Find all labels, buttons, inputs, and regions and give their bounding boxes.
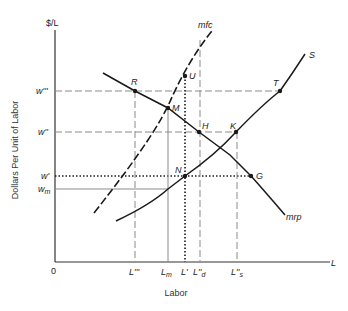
curve-mfc xyxy=(94,31,212,213)
tick-label-w3: w''' xyxy=(36,86,48,96)
svg-text:G: G xyxy=(256,171,263,181)
tick-label-wm: wm xyxy=(38,184,51,195)
svg-text:M: M xyxy=(172,103,180,113)
svg-text:T: T xyxy=(273,78,280,88)
curve-label-supply: S xyxy=(309,50,315,60)
tick-label-Ls: L''s xyxy=(231,267,243,278)
x-axis-end-label: L xyxy=(331,258,336,268)
point-G: G xyxy=(249,171,263,181)
tick-label-L3: L''' xyxy=(129,267,139,277)
labor-market-diagram: $/L L 0 Labor Dollars Per Unit of Labor … xyxy=(0,0,348,311)
x-axis-title: Labor xyxy=(164,288,187,298)
svg-text:R: R xyxy=(131,77,138,87)
curve-mrp xyxy=(103,73,285,215)
tick-label-Lm: Lm xyxy=(161,267,172,278)
origin-label: 0 xyxy=(51,266,56,276)
svg-text:U: U xyxy=(189,71,196,81)
tick-label-Ld: L''d xyxy=(193,267,206,278)
y-axis-unit-label: $/L xyxy=(46,18,59,28)
svg-text:H: H xyxy=(202,121,209,131)
y-axis-title: Dollars Per Unit of Labor xyxy=(10,101,20,200)
curve-label-mrp: mrp xyxy=(286,212,302,222)
curve-label-mfc: mfc xyxy=(198,20,213,30)
svg-text:K: K xyxy=(230,121,237,131)
point-R: R xyxy=(131,77,138,93)
svg-text:N: N xyxy=(175,165,182,175)
tick-label-w2: w'' xyxy=(38,127,48,137)
tick-label-w1: w' xyxy=(41,171,49,181)
tick-label-L1: L' xyxy=(181,267,188,277)
